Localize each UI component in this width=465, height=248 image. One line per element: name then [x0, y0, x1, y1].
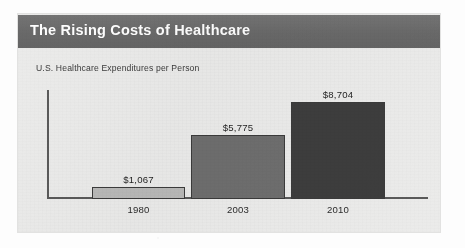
bar-value-label-2003: $5,775	[191, 122, 285, 133]
y-axis-line	[47, 90, 49, 198]
page-title: The Rising Costs of Healthcare	[30, 22, 250, 38]
chart-panel: The Rising Costs of Healthcare U.S. Heal…	[18, 14, 440, 232]
bar-2010	[291, 102, 385, 199]
plot-area: $1,067 $5,775 $8,704 1980 2003 2010	[47, 76, 440, 232]
chart-header-bar: The Rising Costs of Healthcare	[18, 15, 440, 48]
bar-2003	[191, 135, 285, 199]
x-axis-label-1980: 1980	[92, 204, 185, 215]
bar-value-label-2010: $8,704	[291, 89, 385, 100]
bar-value-label-1980: $1,067	[92, 174, 185, 185]
bar-1980	[92, 187, 185, 199]
chart-subtitle: U.S. Healthcare Expenditures per Person	[36, 63, 199, 73]
x-axis-label-2010: 2010	[291, 204, 385, 215]
x-axis-label-2003: 2003	[191, 204, 285, 215]
